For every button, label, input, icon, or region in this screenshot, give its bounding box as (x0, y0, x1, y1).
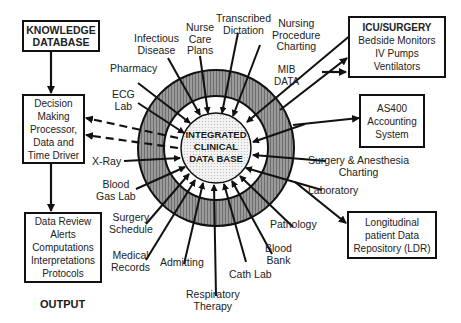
label-infectious-disease: InfectiousDisease (134, 33, 179, 56)
box-line: patient Data (365, 229, 419, 242)
label-surgery-anesthesia-charting: Surgery & AnesthesiaCharting (308, 155, 409, 178)
box-line: DATABASE (33, 36, 90, 48)
label-admitting: Admitting (160, 257, 204, 269)
box-line: Ventilators (374, 60, 421, 73)
box-line: Time Driver (28, 149, 79, 162)
box-line: Alerts (50, 228, 76, 241)
label-medical-records: MedicalRecords (111, 250, 150, 273)
box-line: Repository (LDR) (353, 242, 430, 255)
output-label: OUTPUT (40, 298, 85, 310)
decision-making-processor-box: Decision Making Processor, Data and Time… (22, 94, 85, 164)
box-line: Data and (33, 136, 74, 149)
label-x-ray: X-Ray (92, 156, 121, 168)
label-laboratory: Laboratory (308, 185, 358, 197)
label-cath-lab: Cath Lab (229, 269, 272, 281)
box-line: System (375, 128, 408, 141)
center-database-label: INTEGRATED CLINICAL DATA BASE (181, 129, 251, 165)
label-ecg-lab: ECGLab (112, 89, 135, 112)
box-line: Accounting (367, 115, 416, 128)
label-nurse-care-plans: NurseCarePlans (186, 22, 214, 57)
box-line: KNOWLEDGE (26, 24, 95, 36)
box-line: Computations (32, 241, 94, 254)
icu-surgery-box: ICU/SURGERY Bedside Monitors IV Pumps Ve… (348, 16, 446, 78)
label-pharmacy: Pharmacy (110, 63, 157, 75)
center-line-3: DATA BASE (181, 153, 251, 165)
ldr-box: Longitudinal patient Data Repository (LD… (347, 211, 437, 259)
box-line: Making (37, 110, 69, 123)
label-mib-data: MIBDATA (274, 64, 299, 87)
box-line: Interpretations (31, 254, 95, 267)
as400-accounting-box: AS400 Accounting System (359, 94, 425, 148)
integrated-clinical-database-diagram: INTEGRATED CLINICAL DATA BASE KNOWLEDGE … (0, 0, 461, 323)
label-blood-gas-lab: BloodGas Lab (96, 179, 136, 202)
output-box: Data Review Alerts Computations Interpre… (24, 212, 102, 283)
box-line: Longitudinal (365, 216, 419, 229)
label-pathology: Pathology (270, 219, 317, 231)
label-respiratory-therapy: RespiratoryTherapy (186, 289, 240, 312)
box-line: IV Pumps (375, 47, 418, 60)
box-line: Decision (34, 97, 72, 110)
center-line-1: INTEGRATED (181, 129, 251, 141)
label-surgery-schedule: SurgerySchedule (109, 212, 153, 235)
box-line: Data Review (35, 215, 92, 228)
box-line: Processor, (30, 123, 77, 136)
knowledge-database-box: KNOWLEDGE DATABASE (22, 20, 100, 52)
label-nursing-procedure-charting: NursingProcedureCharting (272, 18, 320, 53)
box-line: AS400 (377, 102, 407, 115)
label-transcribed-dictation: TranscribedDictation (216, 13, 271, 36)
box-title: ICU/SURGERY (362, 21, 431, 34)
center-line-2: CLINICAL (181, 141, 251, 153)
box-line: Protocols (42, 267, 84, 280)
box-line: Bedside Monitors (358, 34, 435, 47)
label-blood-bank: BloodBank (265, 243, 292, 266)
